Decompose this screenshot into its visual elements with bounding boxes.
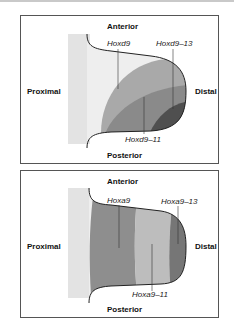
proximal-label: Proximal [27,242,61,251]
gene-label-hoxd9-11: Hoxd9–11 [125,135,161,144]
proximal-region [68,34,90,144]
hoxa9-zone [90,196,137,296]
proximal-region [68,188,90,298]
anterior-label: Anterior [107,177,138,186]
distal-label: Distal [195,87,217,96]
gene-label-hoxd9-13: Hoxd9–13 [156,39,192,48]
gene-label-hoxd9: Hoxd9 [107,39,130,48]
posterior-label: Posterior [107,151,142,160]
gene-label-hoxa9-13: Hoxa9–13 [161,197,197,206]
gene-label-hoxa9-11: Hoxa9–11 [132,290,168,299]
posterior-label: Posterior [107,305,142,314]
hoxa9-11-zone [135,196,173,296]
anterior-label: Anterior [107,22,138,31]
hoxa-expression-panel: Anterior Posterior Proximal Distal Hoxa9… [20,170,219,318]
gene-label-hoxa9: Hoxa9 [107,196,130,205]
hoxd-expression-panel: Anterior Posterior Proximal Distal Hoxd9… [20,15,219,164]
distal-label: Distal [195,242,217,251]
proximal-label: Proximal [27,87,61,96]
top-divider [0,0,234,2]
